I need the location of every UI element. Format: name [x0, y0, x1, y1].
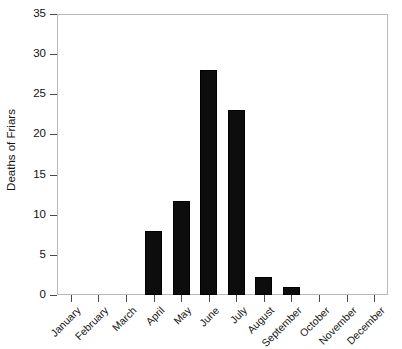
y-axis-label: Deaths of Friars	[4, 60, 18, 240]
bar-august	[255, 277, 272, 295]
y-tick-mark	[50, 175, 57, 176]
y-tick-mark	[50, 295, 57, 296]
y-tick-mark	[50, 14, 57, 15]
x-tick-mark	[98, 295, 99, 302]
x-tick-label-may: May	[171, 304, 194, 327]
x-tick-label-march: March	[109, 304, 138, 333]
bar-july	[228, 110, 245, 295]
x-tick-mark	[347, 295, 348, 302]
x-axis-labels: JanuaryFebruaryMarchAprilMayJuneJulyAugu…	[57, 302, 388, 336]
x-tick-mark	[126, 295, 127, 302]
x-tick-mark	[236, 295, 237, 302]
x-tick-mark	[71, 295, 72, 302]
x-tick-mark	[291, 295, 292, 302]
bar-june	[200, 70, 217, 295]
y-tick-label: 10	[33, 208, 46, 220]
bar-may	[173, 201, 190, 295]
y-tick-label: 0	[40, 288, 46, 300]
x-tick-mark	[209, 295, 210, 302]
y-tick-mark	[50, 215, 57, 216]
y-tick-label: 15	[33, 168, 46, 180]
y-tick-label: 35	[33, 7, 46, 19]
y-tick-label: 30	[33, 47, 46, 59]
y-tick-label: 25	[33, 87, 46, 99]
x-tick-label-june: June	[197, 304, 222, 329]
x-tick-mark	[374, 295, 375, 302]
y-axis-label-text: Deaths of Friars	[5, 109, 17, 191]
y-tick-label: 20	[33, 127, 46, 139]
y-tick-mark	[50, 255, 57, 256]
bars-container	[57, 14, 388, 295]
y-tick-mark	[50, 54, 57, 55]
y-tick-label: 5	[40, 248, 46, 260]
bar-september	[283, 287, 300, 295]
bar-april	[145, 231, 162, 295]
y-tick-mark	[50, 134, 57, 135]
x-tick-label-april: April	[143, 304, 166, 327]
x-tick-mark	[181, 295, 182, 302]
y-tick-mark	[50, 94, 57, 95]
x-tick-mark	[154, 295, 155, 302]
x-tick-label-july: July	[227, 304, 249, 326]
x-tick-mark	[264, 295, 265, 302]
x-tick-mark	[319, 295, 320, 302]
